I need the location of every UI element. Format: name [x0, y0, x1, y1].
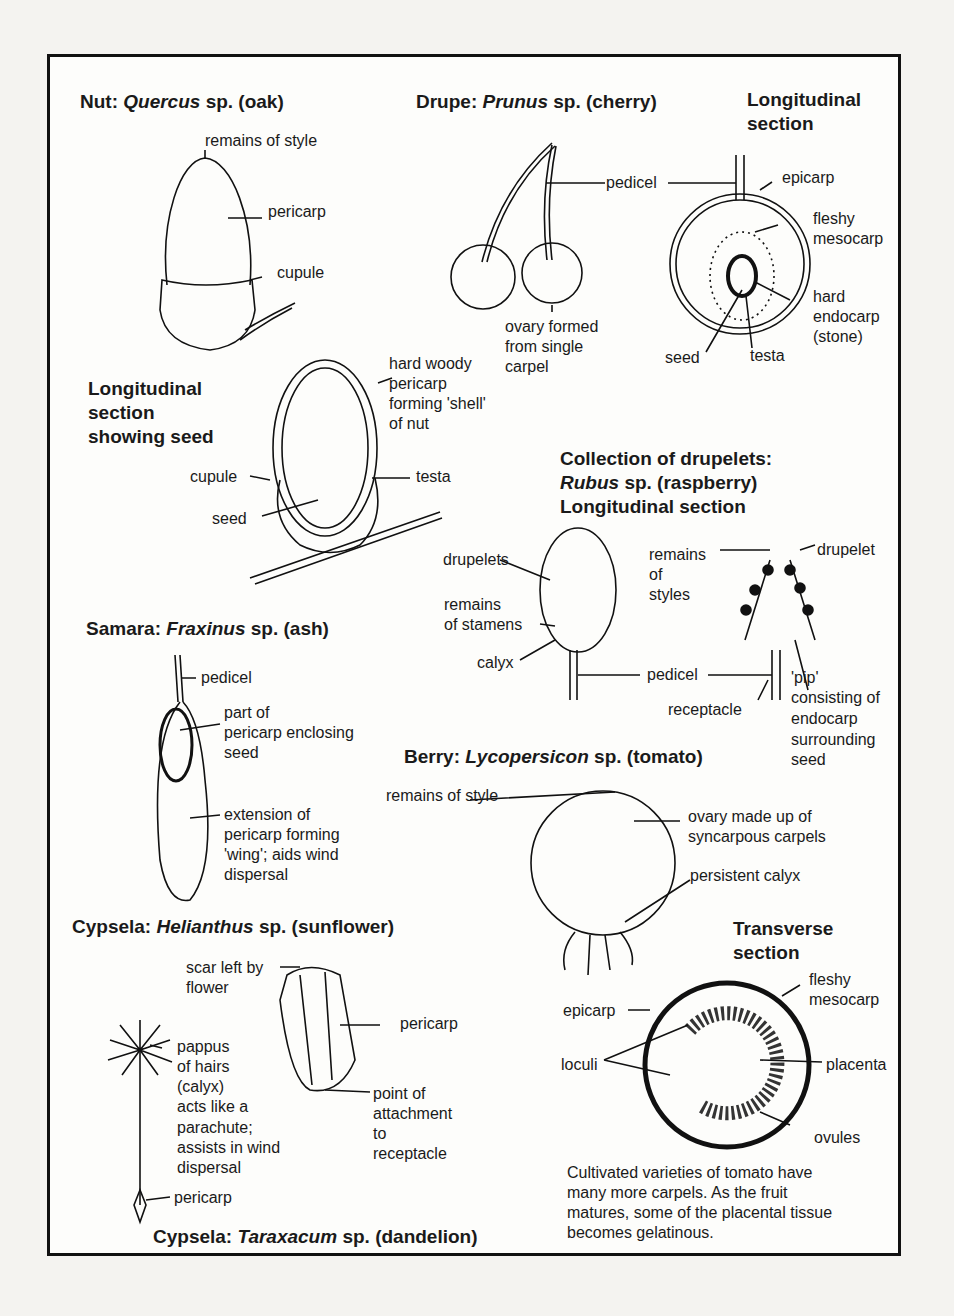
- raspberry-title-1: Collection of drupelets:: [560, 447, 772, 471]
- label-drupe-testa: testa: [750, 346, 785, 366]
- label-mesocarp: mesocarp: [813, 229, 883, 249]
- label-wing-3: 'wing'; aids wind: [224, 845, 339, 865]
- label-pip-3: endocarp: [791, 709, 858, 729]
- label-persistent-calyx: persistent calyx: [690, 866, 800, 886]
- tomato-note-4: becomes gelatinous.: [567, 1223, 714, 1243]
- label-loculi: loculi: [561, 1055, 597, 1075]
- drupe-ls-title-2: section: [747, 112, 814, 136]
- berry-ts-title-1: Transverse: [733, 917, 833, 941]
- label-pip-1: 'pip': [791, 668, 818, 688]
- tomato-note-2: many more carpels. As the fruit: [567, 1183, 788, 1203]
- berry-ts-title-2: section: [733, 941, 800, 965]
- label-tomato-ovary-2: syncarpous carpels: [688, 827, 826, 847]
- label-ts-mesocarp: mesocarp: [809, 990, 879, 1010]
- tomato-note-1: Cultivated varieties of tomato have: [567, 1163, 812, 1183]
- label-stamens-1: remains: [444, 595, 501, 615]
- label-ls-testa: testa: [416, 467, 451, 487]
- raspberry-title-2: Rubus sp. (raspberry): [560, 471, 757, 495]
- label-ls-seed: seed: [212, 509, 247, 529]
- label-pappus-4: acts like a: [177, 1097, 248, 1117]
- label-drupe-pedicel: pedicel: [606, 173, 657, 193]
- sunflower-drawing: [280, 967, 380, 1092]
- label-endocarp: endocarp: [813, 307, 880, 327]
- label-placenta: placenta: [826, 1055, 887, 1075]
- label-part-3: seed: [224, 743, 259, 763]
- label-part-2: pericarp enclosing: [224, 723, 354, 743]
- label-part-1: part of: [224, 703, 269, 723]
- label-ovary-1: ovary formed: [505, 317, 598, 337]
- label-pappus-3: (calyx): [177, 1077, 224, 1097]
- label-point-3: to: [373, 1124, 386, 1144]
- label-wing-2: pericarp forming: [224, 825, 340, 845]
- label-pappus-1: pappus: [177, 1037, 230, 1057]
- samara-drawing: [158, 655, 221, 901]
- label-point-1: point of: [373, 1084, 425, 1104]
- label-ovules: ovules: [814, 1128, 860, 1148]
- label-pip-4: surrounding: [791, 730, 876, 750]
- tomato-drawing: [470, 791, 690, 975]
- nut-ls-title-2: section: [88, 401, 155, 425]
- tomato-note-3: matures, some of the placental tissue: [567, 1203, 832, 1223]
- acorn-drawing: [160, 150, 295, 350]
- label-ovary-2: from single: [505, 337, 583, 357]
- raspberry-title-3: Longitudinal section: [560, 495, 746, 519]
- label-drupelets: drupelets: [443, 550, 509, 570]
- label-wing-4: dispersal: [224, 865, 288, 885]
- label-receptacle: receptacle: [668, 700, 742, 720]
- label-hard-woody-1: hard woody: [389, 354, 472, 374]
- label-rasp-pedicel: pedicel: [647, 665, 698, 685]
- nut-title: Nut: Quercus sp. (oak): [80, 90, 284, 114]
- label-point-4: receptacle: [373, 1144, 447, 1164]
- label-hard-woody-3: forming 'shell': [389, 394, 486, 414]
- label-pip-5: seed: [791, 750, 826, 770]
- samara-title: Samara: Fraxinus sp. (ash): [86, 617, 329, 641]
- label-styles-3: styles: [649, 585, 690, 605]
- label-ts-fleshy: fleshy: [809, 970, 851, 990]
- raspberry-drawing: [500, 528, 640, 700]
- label-pappus-5: parachute;: [177, 1118, 253, 1138]
- label-fleshy: fleshy: [813, 209, 855, 229]
- cherry-drawing: [451, 143, 605, 312]
- dandelion-drawing: [108, 1020, 172, 1222]
- label-hard-woody-2: pericarp: [389, 374, 447, 394]
- label-drupe-seed: seed: [665, 348, 700, 368]
- berry-title: Berry: Lycopersicon sp. (tomato): [404, 745, 703, 769]
- tomato-section-drawing: [604, 983, 822, 1147]
- label-sunflower-pericarp: pericarp: [400, 1014, 458, 1034]
- label-pappus-7: dispersal: [177, 1158, 241, 1178]
- label-scar-1: scar left by: [186, 958, 263, 978]
- label-calyx: calyx: [477, 653, 513, 673]
- label-pappus-2: of hairs: [177, 1057, 229, 1077]
- drupe-ls-title-1: Longitudinal: [747, 88, 861, 112]
- nut-ls-title-1: Longitudinal: [88, 377, 202, 401]
- label-pip-2: consisting of: [791, 688, 880, 708]
- drupe-title: Drupe: Prunus sp. (cherry): [416, 90, 657, 114]
- label-styles-1: remains: [649, 545, 706, 565]
- label-tomato-ovary-1: ovary made up of: [688, 807, 812, 827]
- label-stamens-2: of stamens: [444, 615, 522, 635]
- sunflower-title: Cypsela: Helianthus sp. (sunflower): [72, 915, 394, 939]
- label-styles-2: of: [649, 565, 662, 585]
- label-ovary-3: carpel: [505, 357, 549, 377]
- label-point-2: attachment: [373, 1104, 452, 1124]
- label-wing-1: extension of: [224, 805, 310, 825]
- label-hard: hard: [813, 287, 845, 307]
- label-epicarp: epicarp: [782, 168, 834, 188]
- label-hard-woody-4: of nut: [389, 414, 429, 434]
- label-samara-pedicel: pedicel: [201, 668, 252, 688]
- label-dandelion-pericarp: pericarp: [174, 1188, 232, 1208]
- label-ls-cupule: cupule: [190, 467, 237, 487]
- dandelion-title: Cypsela: Taraxacum sp. (dandelion): [153, 1225, 478, 1249]
- label-remains-of-style: remains of style: [205, 131, 317, 151]
- label-pericarp: pericarp: [268, 202, 326, 222]
- label-cupule: cupule: [277, 263, 324, 283]
- nut-ls-title-3: showing seed: [88, 425, 214, 449]
- label-stone: (stone): [813, 327, 863, 347]
- label-ts-epicarp: epicarp: [563, 1001, 615, 1021]
- label-scar-2: flower: [186, 978, 229, 998]
- label-pappus-6: assists in wind: [177, 1138, 280, 1158]
- label-tomato-style: remains of style: [386, 786, 498, 806]
- label-drupelet: drupelet: [817, 540, 875, 560]
